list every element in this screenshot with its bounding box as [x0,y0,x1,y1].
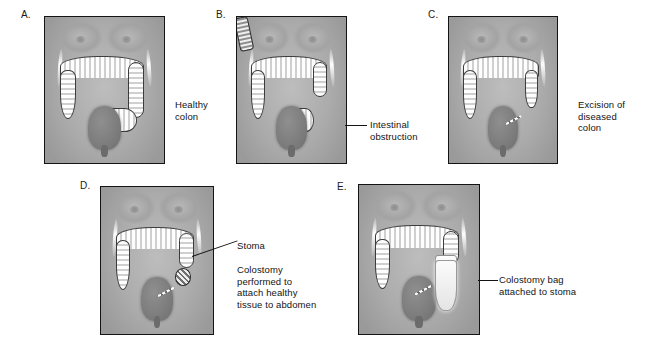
panel-letter-b: B. [216,9,226,20]
nipple-left-icon [390,204,399,211]
ascending-colon [375,239,391,290]
perineum-shading [500,145,506,157]
excision-label: Excision of diseased colon [578,99,625,134]
nipple-right-icon [174,206,183,213]
pelvis-shading [141,277,172,321]
panel-image-c [448,16,558,164]
perineum-shading [154,316,161,328]
healthy-colon-label: Healthy colon [175,99,208,122]
flank-highlight-right [329,49,336,87]
panel-letter-a: A. [21,9,31,20]
colostomy-bag-label: Colostomy bag attached to stoma [499,274,576,297]
panel-image-b [236,16,347,164]
flank-highlight-right [460,218,467,257]
pelvis-shading [488,106,518,150]
intestinal-obstruction-segment [236,16,254,52]
flank-highlight-right [540,49,547,87]
colostomy-bag [435,260,457,311]
nipple-right-icon [519,36,528,43]
excised-colon-stump [525,70,538,108]
ascending-colon [251,70,265,120]
panel-letter-d: D. [80,180,90,191]
flank-highlight-right [146,49,153,87]
colostomy-figure: A. Healthy colon B. [0,0,646,346]
panel-image-e [358,184,480,335]
perineum-shading [288,145,295,157]
nipple-left-icon [130,206,139,213]
nipple-left-icon [265,36,274,43]
nipple-left-icon [477,36,486,43]
intestinal-obstruction-label: Intestinal obstruction [370,119,418,142]
torso-illustration-a [45,17,164,163]
panel-letter-c: C. [428,9,438,20]
torso-illustration-d [101,187,213,334]
nipple-right-icon [122,36,131,43]
pelvis-shading [402,276,436,321]
panel-image-d [100,186,214,335]
panel-image-a [44,16,165,164]
pelvis-shading [88,106,121,150]
leader-line-colostomy-bag [478,280,498,281]
stoma-label: Stoma [237,240,265,252]
ascending-colon [60,70,75,120]
descending-colon [179,233,194,268]
pelvis-shading [276,106,307,150]
nipple-right-icon [437,204,446,211]
torso-illustration-e [359,185,479,334]
ascending-colon [463,70,477,120]
nipple-left-icon [76,36,85,43]
perineum-shading [101,145,108,157]
nipple-right-icon [308,36,317,43]
stoma [175,268,192,286]
colostomy-description-label: Colostomy performed to attach healthy ti… [237,264,316,310]
leader-line-intestinal-obstruction [345,125,367,126]
descending-colon [313,62,327,97]
panel-letter-e: E. [337,181,347,192]
perineum-shading [415,316,422,328]
torso-illustration-b [237,17,346,163]
ascending-colon [116,240,131,290]
torso-illustration-c [449,17,557,163]
